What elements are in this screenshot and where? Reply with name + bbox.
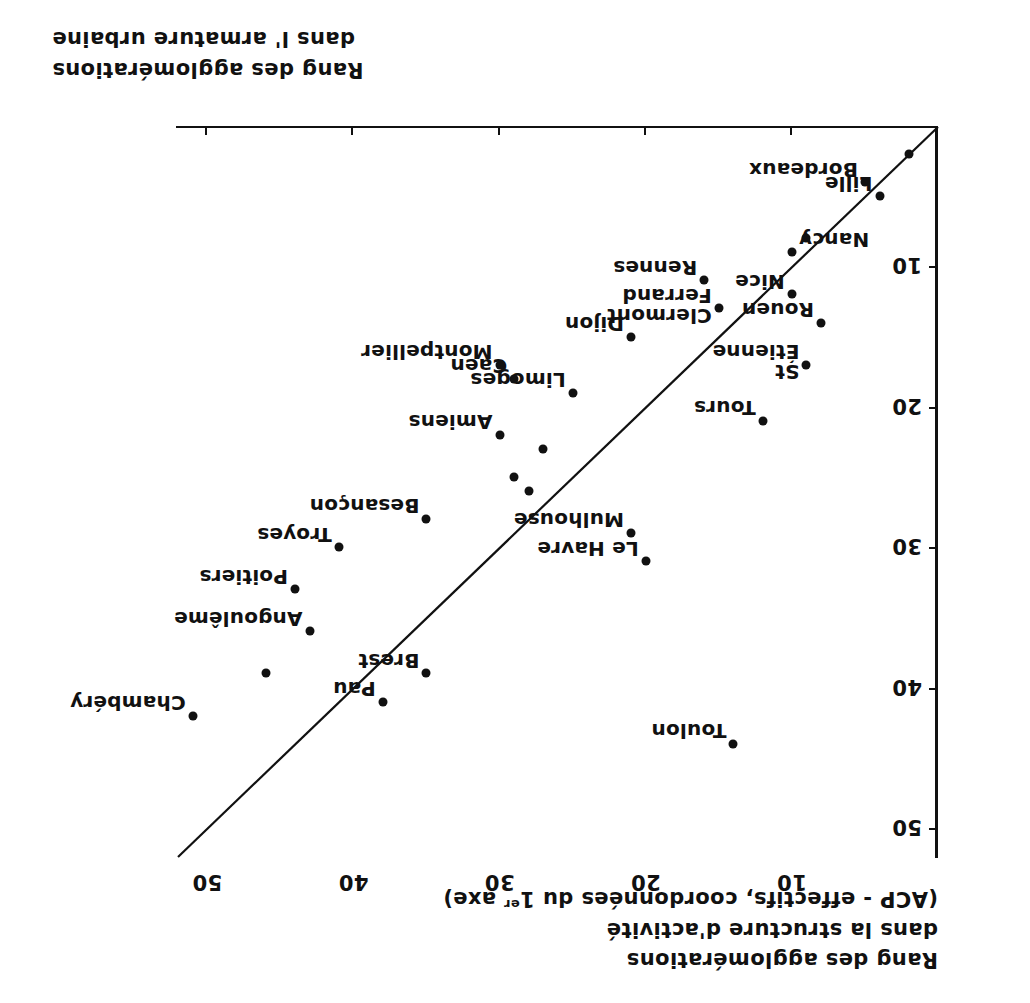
- scatter-point-label: Lille: [825, 173, 873, 193]
- y-axis-caption: Rang des agglomérations dans la structu…: [443, 884, 938, 975]
- scatter-point-label: Brest: [358, 651, 419, 671]
- scatter-point: [290, 585, 299, 594]
- scatter-point: [261, 669, 270, 678]
- scatter-point: [758, 416, 767, 425]
- scatter-point: [495, 430, 504, 439]
- scatter-point-label-line: Étienne: [712, 342, 799, 362]
- scatter-point-label: Tours: [694, 398, 756, 418]
- x-tick-mark: [205, 126, 207, 135]
- scatter-point: [904, 150, 913, 159]
- x-tick-mark: [498, 126, 500, 135]
- rotated-plate: 1020304050 1020304050 BordeauxLilleNancy…: [0, 0, 1030, 1003]
- scatter-point: [802, 360, 811, 369]
- y-tick-label: 40: [892, 675, 922, 699]
- scatter-point: [305, 627, 314, 636]
- scatter-point: [422, 669, 431, 678]
- y-axis-caption-line3-pre: (ACP - effectifs, coordonnées du 1: [520, 887, 938, 911]
- x-axis-caption: Rang des agglomérations dans l' armatur…: [52, 24, 364, 85]
- scatter-point: [875, 192, 884, 201]
- scatter-point-label: Chambéry: [70, 693, 186, 713]
- y-tick-mark: [929, 407, 938, 409]
- x-axis-caption-line2: dans l' armature urbaine: [52, 24, 364, 54]
- scatter-point-label: Poitiers: [199, 566, 288, 586]
- y-tick-label: 20: [892, 394, 922, 418]
- scatter-point-label: Le Havre: [537, 538, 639, 558]
- x-tick-mark: [351, 126, 353, 135]
- x-tick-mark: [790, 126, 792, 135]
- scatter-point: [641, 557, 650, 566]
- scatter-point-label: StÉtienne: [712, 342, 799, 383]
- scatter-point-label-line: St: [775, 360, 799, 384]
- scatter-point: [627, 332, 636, 341]
- scatter-point-label-line: Ferrand: [607, 286, 712, 306]
- y-tick-mark: [929, 547, 938, 549]
- figure-root: 1020304050 1020304050 BordeauxLilleNancy…: [0, 0, 1030, 1003]
- y-axis-caption-line3-post: axe): [443, 887, 504, 911]
- scatter-point-label: Nancy: [799, 229, 869, 249]
- scatter-point: [817, 318, 826, 327]
- scatter-point-label: Angoulême: [174, 608, 303, 628]
- scatter-point-label: Rouen: [742, 300, 814, 320]
- y-tick-label: 50: [892, 815, 922, 839]
- y-axis-caption-line2: dans la structure d'activité: [443, 914, 938, 944]
- scatter-point-label: Mulhouse: [514, 510, 624, 530]
- x-tick-label: 50: [192, 870, 222, 894]
- scatter-point-label: Nice: [735, 271, 785, 291]
- scatter-point: [729, 739, 738, 748]
- scatter-point: [568, 388, 577, 397]
- y-tick-mark: [929, 828, 938, 830]
- x-tick-label: 40: [338, 870, 368, 894]
- y-tick-label: 30: [892, 534, 922, 558]
- scatter-point-label: Rennes: [613, 257, 697, 277]
- y-tick-mark: [929, 266, 938, 268]
- y-tick-mark: [929, 688, 938, 690]
- scatter-point-label: Pau: [333, 679, 375, 699]
- scatter-point: [334, 543, 343, 552]
- scatter-point-label: Toulon: [651, 721, 726, 741]
- y-axis-caption-line3: (ACP - effectifs, coordonnées du 1er ax…: [443, 884, 938, 914]
- scatter-point: [422, 515, 431, 524]
- y-axis-caption-line1: Rang des agglomérations: [443, 945, 938, 975]
- scatter-point: [510, 472, 519, 481]
- scatter-point-label: Dijon: [565, 314, 624, 334]
- scatter-point-label: Troyes: [257, 524, 332, 544]
- scatter-point: [524, 487, 533, 496]
- scatter-point: [539, 444, 548, 453]
- x-axis-caption-line1: Rang des agglomérations: [52, 54, 364, 84]
- scatter-point: [787, 248, 796, 257]
- x-tick-mark: [644, 126, 646, 135]
- scatter-point: [714, 304, 723, 313]
- scatter-point: [378, 697, 387, 706]
- scatter-point: [188, 711, 197, 720]
- scatter-plot: 1020304050 1020304050 BordeauxLilleNancy…: [178, 126, 938, 856]
- y-tick-label: 10: [892, 253, 922, 277]
- scatter-point-label: Besançon: [310, 496, 420, 516]
- y-axis-caption-line3-sup: er: [504, 897, 520, 912]
- scatter-point-label: Limoges: [470, 370, 565, 390]
- scatter-point-label: Amiens: [408, 412, 492, 432]
